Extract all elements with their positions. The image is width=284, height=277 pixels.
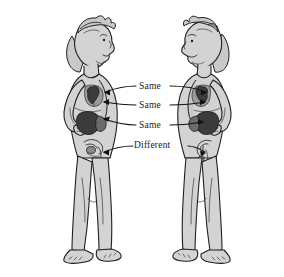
body-comparison-illustration: .sk{fill:#d3d3d3;stroke:#1f1f1f;stroke-w… [0,0,284,277]
illustration-canvas: .sk{fill:#d3d3d3;stroke:#1f1f1f;stroke-w… [0,0,284,277]
label-same-1: Same [139,82,161,92]
label-same-2: Same [139,101,161,111]
label-same-3: Same [139,121,161,131]
label-different-1: Different [134,141,170,151]
